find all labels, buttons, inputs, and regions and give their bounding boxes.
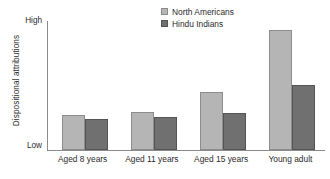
legend-swatch-icon — [161, 8, 168, 15]
x-axis-tick-label: Young adult — [250, 154, 330, 164]
y-axis-title: Dispositional attributions — [12, 11, 21, 151]
bar-group — [131, 22, 177, 150]
bar[interactable] — [292, 85, 315, 150]
bar[interactable] — [154, 117, 177, 150]
x-axis-tick-label: Aged 8 years — [43, 154, 123, 164]
legend-label: Hindu Indians — [172, 19, 223, 29]
chart-legend: North AmericansHindu Indians — [161, 6, 234, 30]
bar-group — [200, 22, 246, 150]
bar[interactable] — [223, 113, 246, 150]
y-axis-tick-high: High — [12, 16, 42, 25]
x-axis-tick-label: Aged 15 years — [181, 154, 261, 164]
y-axis-tick-low: Low — [12, 141, 42, 150]
chart-screenshot: Dispositional attributions High Low Aged… — [0, 0, 330, 179]
legend-label: North Americans — [172, 7, 234, 17]
bar[interactable] — [269, 30, 292, 150]
bar[interactable] — [62, 115, 85, 150]
bar[interactable] — [131, 112, 154, 150]
plot-area — [48, 22, 325, 150]
bar-group — [269, 22, 315, 150]
x-axis-line — [47, 150, 325, 151]
bar[interactable] — [200, 92, 223, 150]
legend-item[interactable]: Hindu Indians — [161, 18, 234, 29]
bar[interactable] — [85, 119, 108, 150]
bar-group — [62, 22, 108, 150]
legend-item[interactable]: North Americans — [161, 6, 234, 17]
x-axis-category-labels: Aged 8 yearsAged 11 yearsAged 15 yearsYo… — [48, 154, 325, 170]
x-axis-tick-label: Aged 11 years — [112, 154, 192, 164]
legend-swatch-icon — [161, 20, 168, 27]
